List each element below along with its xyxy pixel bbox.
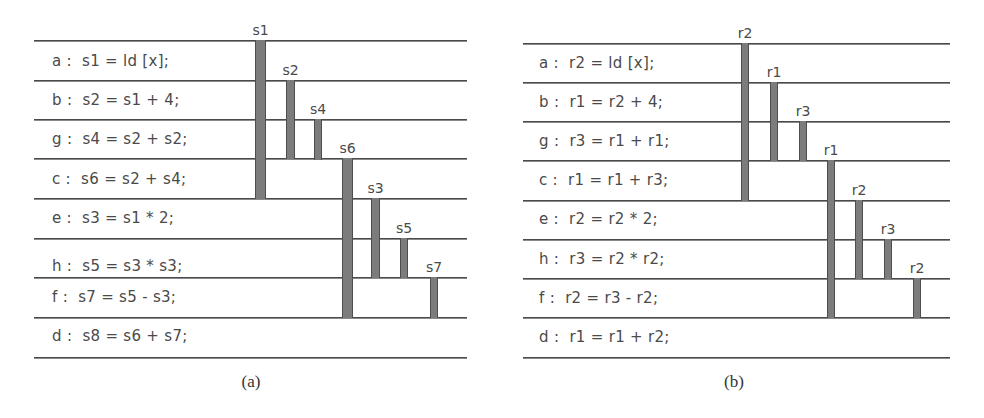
live-range-label-s7: s7 <box>419 259 449 275</box>
row-divider <box>34 317 467 319</box>
row-divider <box>34 80 467 82</box>
instruction-e: e : s3 = s1 * 2; <box>52 209 174 227</box>
live-range-bar-r2 <box>741 43 749 201</box>
live-range-bar-s4 <box>314 119 322 160</box>
instruction-d: d : s8 = s6 + s7; <box>52 327 188 345</box>
live-range-bar-s3 <box>371 198 380 278</box>
figure-caption-b: (b) <box>704 372 764 392</box>
row-divider <box>34 198 467 200</box>
row-divider <box>523 43 950 45</box>
live-range-label-r1: r1 <box>816 142 846 158</box>
instruction-h: h : r3 = r2 * r2; <box>539 250 665 268</box>
row-divider <box>34 40 467 42</box>
live-range-bar-s1 <box>255 40 266 199</box>
instruction-c: c : s6 = s2 + s4; <box>52 170 186 188</box>
row-divider <box>34 158 467 160</box>
live-range-label-r3: r3 <box>873 221 903 237</box>
instruction-f: f : r2 = r3 - r2; <box>539 289 658 307</box>
live-range-bar-s2 <box>286 80 295 159</box>
row-divider <box>34 119 467 121</box>
row-divider <box>523 357 950 359</box>
row-divider <box>523 317 950 319</box>
live-range-label-r2: r2 <box>844 182 874 198</box>
live-range-label-r2: r2 <box>730 25 760 41</box>
instruction-a: a : r2 = ld [x]; <box>539 54 655 72</box>
row-divider <box>523 200 950 202</box>
instruction-c: c : r1 = r1 + r3; <box>539 171 668 189</box>
live-range-label-r1: r1 <box>759 64 789 80</box>
live-range-label-s4: s4 <box>303 101 333 117</box>
live-range-bar-r3 <box>799 121 807 161</box>
row-divider <box>523 121 950 123</box>
live-range-bar-r1 <box>827 160 835 318</box>
live-range-bar-r2 <box>913 278 921 318</box>
instruction-f: f : s7 = s5 - s3; <box>52 288 176 306</box>
instruction-g: g : s4 = s2 + s2; <box>52 130 188 148</box>
row-divider <box>523 82 950 84</box>
live-range-bar-r1 <box>770 82 778 161</box>
live-range-label-s3: s3 <box>361 180 391 196</box>
instruction-g: g : r3 = r1 + r1; <box>539 132 670 150</box>
live-range-bar-s7 <box>430 277 438 318</box>
live-range-label-s6: s6 <box>333 140 363 156</box>
live-range-bar-r3 <box>884 239 892 279</box>
live-range-label-r3: r3 <box>788 103 818 119</box>
instruction-e: e : r2 = r2 * 2; <box>539 210 658 228</box>
live-range-label-s1: s1 <box>246 22 276 38</box>
figure-caption-a: (a) <box>221 372 281 392</box>
live-range-bar-s5 <box>400 238 408 278</box>
instruction-a: a : s1 = ld [x]; <box>52 52 169 70</box>
instruction-b: b : s2 = s1 + 4; <box>52 91 180 109</box>
instruction-h: h : s5 = s3 * s3; <box>52 257 183 275</box>
live-range-label-s2: s2 <box>276 62 306 78</box>
live-range-label-r2: r2 <box>902 260 932 276</box>
row-divider <box>34 357 467 359</box>
row-divider <box>523 160 950 162</box>
instruction-d: d : r1 = r1 + r2; <box>539 328 670 346</box>
live-range-bar-r2 <box>855 200 863 279</box>
live-range-bar-s6 <box>342 158 353 318</box>
instruction-b: b : r1 = r2 + 4; <box>539 93 663 111</box>
live-range-label-s5: s5 <box>389 220 419 236</box>
